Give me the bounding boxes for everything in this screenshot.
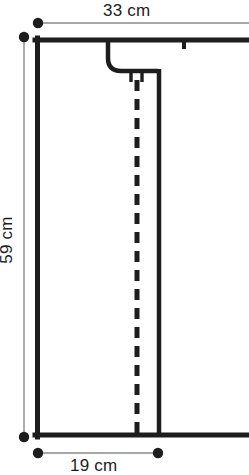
dimension-label-bottom-width: 19 cm	[70, 456, 117, 475]
dimension-dot-bottom-left	[33, 448, 43, 458]
dimension-label-top-width: 33 cm	[103, 1, 150, 21]
dimension-dot-top-left	[33, 18, 43, 28]
dimension-label-left-height: 59 cm	[0, 216, 17, 263]
dimension-dot-left-top	[19, 32, 29, 42]
dimension-dot-left-bottom	[19, 432, 29, 442]
dimension-left-height	[19, 32, 29, 442]
curved-hook-cutout	[108, 42, 158, 71]
dimension-dot-bottom-right	[153, 448, 163, 458]
